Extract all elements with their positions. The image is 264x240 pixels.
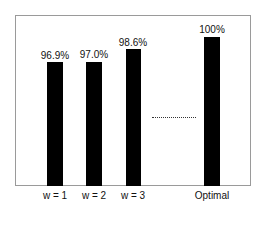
bar-w2 <box>86 62 102 186</box>
ellipsis-dots <box>152 117 196 118</box>
value-label-w2: 97.0% <box>74 49 114 60</box>
bar-w1 <box>47 62 63 186</box>
tick-label-optimal: Optimal <box>187 190 237 201</box>
bar-optimal <box>204 37 220 186</box>
value-label-optimal: 100% <box>192 24 232 35</box>
value-label-w1: 96.9% <box>35 50 75 61</box>
value-label-w3: 98.6% <box>113 37 153 48</box>
bar-w3 <box>126 49 141 186</box>
tick-label-w3: w = 3 <box>108 190 158 201</box>
